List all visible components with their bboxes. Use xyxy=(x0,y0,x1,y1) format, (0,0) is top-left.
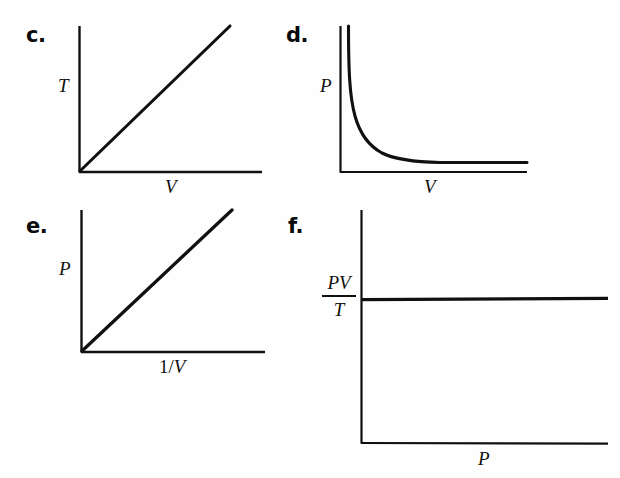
panel-f-x-axis-label: P xyxy=(478,449,490,468)
panel-f-data-line xyxy=(361,298,608,299)
figure-root: c. T V d. P V e. P 1/ xyxy=(0,0,620,478)
panel-f-y-axis-label: PV T xyxy=(322,273,356,319)
panel-f-x-axis xyxy=(361,443,608,444)
fraction-bar-icon xyxy=(322,295,356,297)
panel-f-y-axis-label-numerator: PV xyxy=(322,273,356,294)
panel-f-plot xyxy=(0,0,620,478)
panel-f-y-axis-label-denominator: T xyxy=(322,299,356,320)
